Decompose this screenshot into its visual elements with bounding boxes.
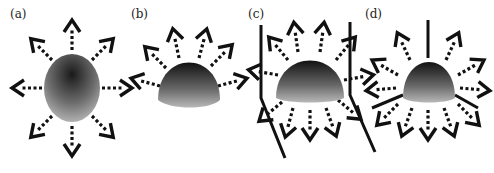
figure-canvas [0,0,494,173]
panel-a [12,20,132,156]
hemisphere [158,63,220,108]
panel-c [247,21,375,158]
panel-d [365,20,490,140]
panel-b [129,27,249,108]
hemisphere [403,62,455,103]
sphere [44,54,100,122]
hemisphere [276,61,344,103]
